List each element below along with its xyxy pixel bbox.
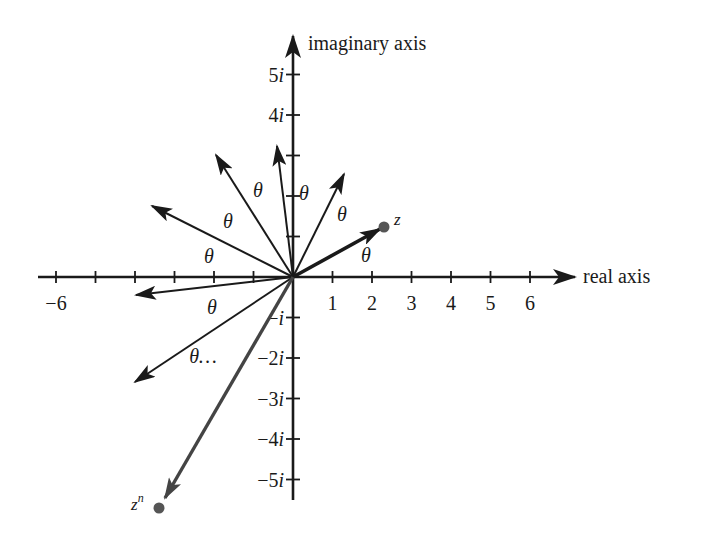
- point-zn-label: zn: [130, 491, 144, 514]
- imaginary-tick-label: −2i: [257, 347, 284, 369]
- real-tick-label: 1: [328, 292, 338, 314]
- angle-theta-label: θ: [253, 179, 263, 201]
- imaginary-axis-label: imaginary axis: [308, 32, 427, 55]
- angle-theta-label: θ: [299, 182, 309, 204]
- complex-plane-diagram: real axis imaginary axis −61234565i4i−i−…: [0, 0, 701, 546]
- angle-theta-label: θ…: [189, 345, 217, 367]
- zn-superscript: n: [138, 491, 144, 505]
- point-z: z: [379, 210, 402, 233]
- angle-theta-label: θ: [223, 210, 233, 232]
- imaginary-tick-label: −4i: [257, 428, 284, 450]
- angle-labels: θθθθθθθθ…: [189, 179, 371, 367]
- vector-z3: [277, 146, 293, 277]
- point-z-label: z: [393, 210, 401, 229]
- real-tick-label: 4: [446, 292, 456, 314]
- point-z-dot: [379, 222, 390, 233]
- imaginary-tick-label: 4i: [268, 104, 284, 126]
- angle-theta-label: θ: [204, 245, 214, 267]
- angle-theta-label: θ: [207, 296, 217, 318]
- real-tick-label: 3: [407, 292, 417, 314]
- real-tick-label: 5: [486, 292, 496, 314]
- imaginary-tick-label: −3i: [257, 388, 284, 410]
- real-tick-label: 6: [525, 292, 535, 314]
- point-zn-dot: [154, 503, 165, 514]
- point-zn: zn: [130, 491, 165, 514]
- real-axis-label: real axis: [583, 265, 650, 287]
- angle-theta-label: θ: [361, 244, 371, 266]
- imaginary-tick-label: 5i: [268, 64, 284, 86]
- imaginary-tick-label: −5i: [257, 469, 284, 491]
- angle-theta-label: θ: [337, 203, 347, 225]
- real-tick-label: 2: [367, 292, 377, 314]
- real-tick-label: −6: [45, 292, 66, 314]
